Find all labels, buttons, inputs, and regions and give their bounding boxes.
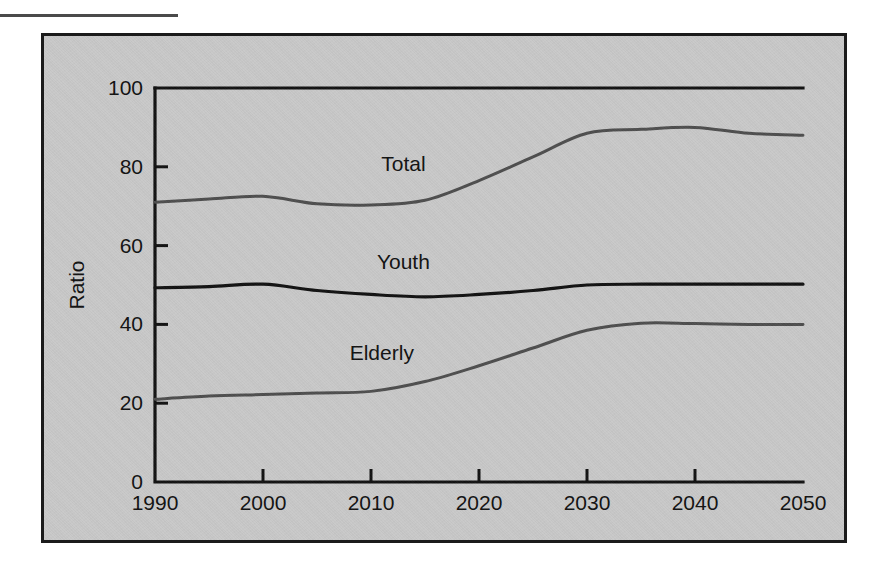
x-tick-label: 2020	[456, 491, 503, 514]
y-tick-label: 80	[120, 155, 143, 178]
y-tick-label: 0	[131, 470, 143, 493]
chart-series	[155, 127, 803, 399]
line-chart: 020406080100 199020002010202020302040205…	[44, 36, 844, 540]
x-tick-label: 2030	[564, 491, 611, 514]
x-tick-label: 1990	[132, 491, 179, 514]
x-tick-label: 2010	[348, 491, 395, 514]
y-tick-label: 100	[108, 76, 143, 99]
x-axis-tick-labels: 1990200020102020203020402050	[132, 491, 827, 514]
series-line-elderly	[155, 323, 803, 399]
y-axis-tick-labels: 020406080100	[108, 76, 143, 493]
x-tick-label: 2050	[780, 491, 827, 514]
series-inline-labels: TotalYouthElderly	[350, 152, 430, 364]
page-horizontal-rule	[0, 14, 178, 17]
y-tick-label: 60	[120, 234, 143, 257]
x-tick-label: 2000	[240, 491, 287, 514]
x-axis-ticks	[263, 469, 695, 482]
figure-panel: 020406080100 199020002010202020302040205…	[41, 33, 847, 543]
y-axis-title: Ratio	[65, 260, 88, 309]
y-tick-label: 20	[120, 391, 143, 414]
scanned-page: 020406080100 199020002010202020302040205…	[0, 0, 887, 578]
series-line-total	[155, 127, 803, 205]
series-label-youth: Youth	[377, 250, 430, 273]
series-line-youth	[155, 284, 803, 297]
series-label-elderly: Elderly	[350, 341, 415, 364]
y-tick-label: 40	[120, 312, 143, 335]
series-label-total: Total	[381, 152, 425, 175]
x-tick-label: 2040	[672, 491, 719, 514]
